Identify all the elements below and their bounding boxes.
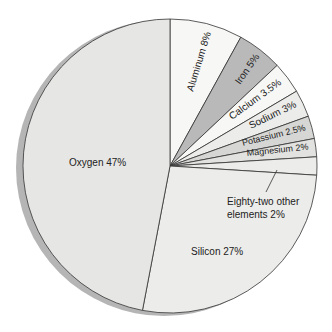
label-other-line2: elements 2%	[227, 209, 285, 220]
label-oxygen: Oxygen 47%	[69, 157, 126, 168]
pie-slices	[23, 19, 317, 313]
label-silicon: Silicon 27%	[191, 246, 243, 257]
slice-silicon	[142, 166, 316, 313]
label-other-line1: Eighty-two other	[227, 196, 300, 207]
pie-chart: Aluminum 8% Iron 5% Calcium 3.5% Sodium …	[0, 0, 332, 332]
